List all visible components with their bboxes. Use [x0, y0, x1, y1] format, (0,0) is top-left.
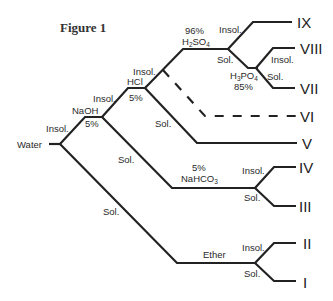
naoh-sol-label: Sol.: [118, 154, 134, 165]
naoh-sol-branch: [102, 117, 255, 188]
nahco3-sol-branch: [255, 188, 296, 206]
flowchart-svg: Figure 1 Water Insol. NaOH 5% Sol. Ether…: [0, 0, 333, 301]
water-sol-label: Sol.: [103, 206, 119, 217]
water-insol-label: Insol.: [46, 123, 69, 134]
class-VIII: VIII: [300, 40, 323, 57]
nahco3-label: NaHCO3: [181, 173, 218, 185]
class-IV: IV: [299, 159, 313, 176]
nahco3-conc-label: 5%: [192, 162, 206, 173]
nahco3-sol-label: Sol.: [244, 192, 260, 203]
h2so4-insol-label: Insol.: [219, 24, 242, 35]
naoh-insol-label: Insol.: [93, 93, 116, 104]
h2so4-label: H2SO4: [182, 36, 210, 48]
hcl-sol-label: Sol.: [155, 118, 171, 129]
class-II: II: [303, 235, 311, 252]
class-V: V: [302, 135, 312, 152]
class-VII: VII: [300, 80, 318, 97]
h3po4-conc-label: 85%: [234, 81, 254, 92]
nahco3-insol-label: Insol.: [242, 165, 265, 176]
h2so4-sol-label: Sol.: [217, 54, 233, 65]
ether-sol-label: Sol.: [244, 268, 260, 279]
figure-title: Figure 1: [60, 20, 106, 35]
ether-label: Ether: [203, 249, 226, 260]
hcl-insol-label: Insol.: [133, 66, 156, 77]
class-VI: VI: [300, 108, 314, 125]
class-I: I: [303, 274, 307, 291]
ether-sol-branch: [255, 263, 296, 281]
h3po4-sol-label: Sol.: [267, 71, 283, 82]
hcl-insol-branch: [145, 49, 228, 88]
h2so4-conc-label: 96%: [185, 25, 205, 36]
ether-insol-label: Insol.: [242, 242, 265, 253]
class-III: III: [299, 198, 312, 215]
solubility-flowchart: Figure 1 Water Insol. NaOH 5% Sol. Ether…: [0, 0, 333, 301]
naoh-conc-label: 5%: [85, 118, 99, 129]
class-IX: IX: [297, 14, 311, 31]
hcl-conc-label: 5%: [129, 92, 143, 103]
naoh-label: NaOH: [72, 105, 99, 116]
water-sol-branch: [60, 144, 255, 263]
h3po4-insol-label: Insol.: [271, 54, 294, 65]
hcl-label: HCl: [127, 76, 143, 87]
water-label: Water: [17, 139, 42, 150]
